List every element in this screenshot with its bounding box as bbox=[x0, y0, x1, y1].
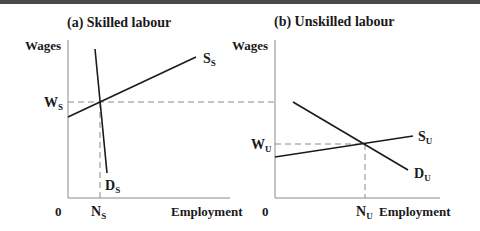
panel-b-x-axis-label: Employment bbox=[379, 204, 451, 219]
demand-label-skilled: DS bbox=[105, 178, 120, 195]
panel-a-y-axis-label: Wages bbox=[25, 38, 61, 53]
employment-label-unskilled: NU bbox=[356, 204, 373, 221]
wage-label-skilled: WS bbox=[44, 95, 63, 112]
wage-label-unskilled: WU bbox=[251, 137, 272, 154]
panel-a-title: (a) Skilled labour bbox=[67, 15, 171, 31]
panel-a-origin: 0 bbox=[55, 204, 62, 219]
demand-curve-skilled bbox=[95, 49, 107, 173]
demand-curve-unskilled bbox=[293, 102, 408, 170]
supply-curve-skilled bbox=[68, 57, 196, 117]
labour-market-diagram: (a) Skilled labour Wages SS DS WS 0 NS E… bbox=[0, 0, 480, 231]
panel-b-title: (b) Unskilled labour bbox=[274, 14, 395, 30]
supply-label-unskilled: SU bbox=[418, 129, 433, 146]
panel-b-y-axis-label: Wages bbox=[232, 38, 268, 53]
supply-curve-unskilled bbox=[275, 136, 413, 157]
panel-unskilled-labour: (b) Unskilled labour Wages SU DU WU 0 NU… bbox=[232, 14, 451, 221]
employment-label-skilled: NS bbox=[91, 204, 106, 221]
panel-b-origin: 0 bbox=[262, 204, 269, 219]
demand-label-unskilled: DU bbox=[414, 166, 431, 183]
panel-a-x-axis-label: Employment bbox=[171, 204, 243, 219]
supply-label-skilled: SS bbox=[203, 51, 216, 68]
